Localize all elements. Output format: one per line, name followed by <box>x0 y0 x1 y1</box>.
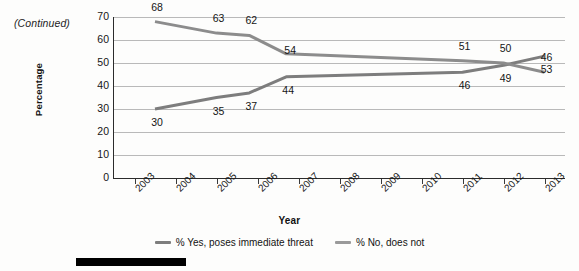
y-tick-label: 10 <box>85 148 109 160</box>
data-label: 49 <box>500 72 512 84</box>
plot-area: 3035374446495368636254515046 <box>114 17 565 178</box>
y-tick-label: 60 <box>85 33 109 45</box>
continued-note: (Continued) <box>14 17 70 29</box>
footer-black-bar <box>76 258 186 266</box>
legend-swatch-icon <box>155 241 171 244</box>
y-tick-label: 70 <box>85 10 109 22</box>
y-tick-label: 40 <box>85 79 109 91</box>
series-line-1 <box>155 56 545 109</box>
y-tick-label: 30 <box>85 102 109 114</box>
data-label: 51 <box>459 40 471 52</box>
legend-item-2[interactable]: % No, does not <box>335 237 424 248</box>
chart-legend: % Yes, poses immediate threat% No, does … <box>0 237 579 248</box>
data-label: 46 <box>459 79 471 91</box>
series-line-2 <box>155 22 545 73</box>
data-label: 63 <box>213 12 225 24</box>
data-label: 62 <box>245 14 257 26</box>
legend-swatch-icon <box>335 241 351 244</box>
data-label: 30 <box>151 116 163 128</box>
chart-page: (Continued) Percentage 706050403020100 3… <box>0 0 579 271</box>
y-tick-label: 20 <box>85 125 109 137</box>
data-label: 68 <box>151 1 163 13</box>
data-label: 46 <box>541 51 553 63</box>
data-label: 54 <box>284 44 296 56</box>
data-label: 37 <box>245 100 257 112</box>
series-lines <box>114 17 565 178</box>
x-axis-title: Year <box>0 215 579 226</box>
data-label: 53 <box>541 63 553 75</box>
legend-label: % No, does not <box>356 237 424 248</box>
y-tick-label: 0 <box>85 171 109 183</box>
data-label: 50 <box>500 42 512 54</box>
y-axis-title: Percentage <box>33 35 44 145</box>
y-tick-label: 50 <box>85 56 109 68</box>
legend-label: % Yes, poses immediate threat <box>176 237 313 248</box>
data-label: 35 <box>213 105 225 117</box>
legend-item-1[interactable]: % Yes, poses immediate threat <box>155 237 313 248</box>
data-label: 44 <box>282 84 294 96</box>
